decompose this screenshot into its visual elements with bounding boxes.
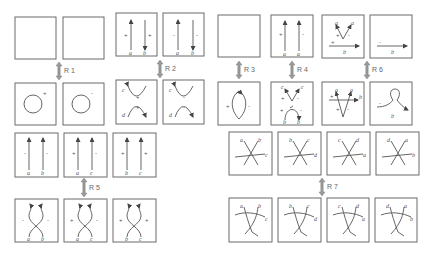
svg-text:-: - <box>95 150 97 156</box>
r5-double-arrow-icon <box>81 178 87 197</box>
svg-text:+: + <box>72 150 76 156</box>
r4-bottom-box <box>271 82 313 125</box>
svg-text:-: - <box>379 100 381 106</box>
r5-top-box-2 <box>64 133 107 177</box>
svg-text:c: c <box>281 84 284 90</box>
svg-text:b: b <box>125 236 128 242</box>
svg-text:+: + <box>336 106 340 112</box>
r7-top-box-1: a b c <box>229 132 272 175</box>
svg-text:b: b <box>289 203 292 209</box>
r4-group: + - a a R 4 c c + - + - b b <box>271 15 313 125</box>
r7-double-arrow-icon <box>319 178 325 196</box>
svg-text:c: c <box>265 216 268 222</box>
r7-bottom-box-3: c d a <box>327 198 369 242</box>
svg-text:a: a <box>405 137 408 143</box>
r7-top-box-2: b c d <box>278 132 321 175</box>
svg-text:c: c <box>338 137 341 143</box>
svg-text:+: + <box>148 32 152 38</box>
r1-move-label: R 1 <box>64 67 75 74</box>
svg-text:+: + <box>124 32 128 38</box>
svg-text:c: c <box>90 236 93 242</box>
svg-text:+: + <box>280 107 284 113</box>
svg-text:a: a <box>76 170 79 176</box>
r5-top-box-3 <box>113 133 156 177</box>
svg-text:b: b <box>391 49 394 55</box>
svg-text:a: a <box>350 87 353 93</box>
svg-text:+: + <box>136 104 140 110</box>
svg-text:b: b <box>412 152 415 158</box>
r1-bottom-right-box <box>63 83 104 125</box>
svg-text:+: + <box>279 31 283 37</box>
svg-text:-: - <box>196 32 198 38</box>
svg-text:b: b <box>343 49 346 55</box>
svg-text:c: c <box>169 87 172 93</box>
r4-move-label: R 4 <box>297 66 308 73</box>
r7-bottom-box-1: a b c <box>229 198 272 242</box>
svg-text:+: + <box>281 95 285 101</box>
svg-text:-: - <box>302 31 304 37</box>
r1-double-arrow-icon <box>56 62 62 80</box>
r5-move-label: R 5 <box>89 184 100 191</box>
r5-group: - - a b + - a c + + b c R 5 - - a b + - … <box>15 133 156 242</box>
svg-text:c: c <box>90 170 93 176</box>
svg-text:a: a <box>351 20 354 26</box>
r7-bottom-box-4: d a b <box>375 198 417 242</box>
r6-group: a a + - + b - b R 6 a a + b + - - b <box>322 15 412 125</box>
svg-text:-: - <box>24 150 26 156</box>
svg-text:a: a <box>362 216 365 222</box>
r7-bottom-box-2: b c d <box>278 198 321 242</box>
svg-text:b: b <box>391 113 394 119</box>
svg-text:b: b <box>283 119 286 125</box>
r7-top-box-3: c d a <box>327 132 370 175</box>
svg-text:b: b <box>297 119 300 125</box>
svg-text:b: b <box>191 50 194 56</box>
svg-text:-: - <box>248 103 250 109</box>
r3-group: R 3 + - <box>218 15 260 125</box>
svg-text:a: a <box>27 236 30 242</box>
r1-bottom-left-box <box>15 83 56 125</box>
r6-move-label: R 6 <box>372 66 383 73</box>
svg-text:-: - <box>183 104 185 110</box>
svg-text:-: - <box>347 106 349 112</box>
svg-text:c: c <box>139 170 142 176</box>
r6-bottom-left-box <box>322 82 364 125</box>
r3-move-label: R 3 <box>244 66 255 73</box>
svg-text:a: a <box>176 50 179 56</box>
svg-text:+: + <box>70 217 74 223</box>
svg-text:+: + <box>144 150 148 156</box>
r4-top-box <box>271 15 313 57</box>
svg-text:-: - <box>183 94 185 100</box>
r7-group: a b c b c d c d a d a b R 7 <box>229 132 419 242</box>
r3-top-box <box>218 15 260 57</box>
svg-text:b: b <box>258 137 261 143</box>
svg-text:c: c <box>307 203 310 209</box>
r3-double-arrow-icon <box>236 61 242 79</box>
svg-text:+: + <box>136 94 140 100</box>
svg-text:a: a <box>335 87 338 93</box>
r5-top-box-1 <box>15 133 58 177</box>
svg-text:b: b <box>258 203 261 209</box>
r1-minus-sign: - <box>91 90 93 96</box>
svg-text:a: a <box>240 203 243 209</box>
svg-text:a: a <box>283 51 286 57</box>
r2-double-arrow-icon <box>157 60 163 78</box>
r1-plus-sign: + <box>43 90 47 96</box>
svg-text:+: + <box>330 93 334 99</box>
svg-text:b: b <box>410 216 413 222</box>
svg-text:c: c <box>301 84 304 90</box>
svg-text:-: - <box>96 217 98 223</box>
svg-text:+: + <box>119 217 123 223</box>
svg-text:-: - <box>297 95 299 101</box>
r2-move-label: R 2 <box>165 65 176 72</box>
svg-text:+: + <box>226 103 230 109</box>
svg-text:c: c <box>139 236 142 242</box>
svg-text:a: a <box>240 137 243 143</box>
r7-top-box-4: d a b <box>376 132 419 175</box>
r1-top-left-box <box>15 17 56 59</box>
svg-text:c: c <box>122 87 125 93</box>
svg-text:b: b <box>41 236 44 242</box>
svg-text:a: a <box>27 170 30 176</box>
svg-text:-: - <box>173 32 175 38</box>
svg-text:a: a <box>363 152 366 158</box>
svg-text:b: b <box>41 170 44 176</box>
